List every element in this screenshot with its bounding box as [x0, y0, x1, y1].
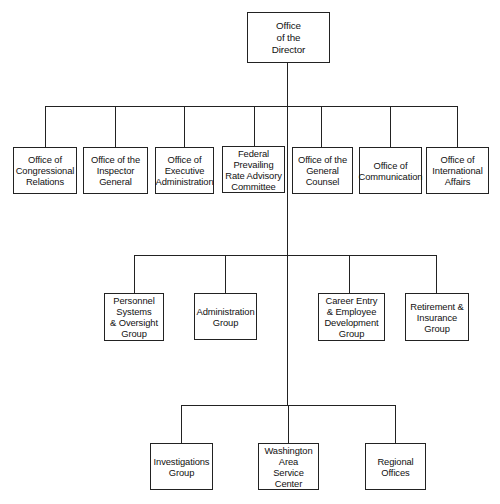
- node-regional-offices: Regional Offices: [365, 443, 426, 490]
- node-inspector-general: Office of the Inspector General: [83, 147, 148, 194]
- connector-counsel: [321, 106, 322, 147]
- node-general-counsel: Office of the General Counsel: [292, 147, 353, 194]
- node-retirement-insurance-group: Retirement & Insurance Group: [405, 293, 469, 341]
- node-washington-area-service-center: Washington Area Service Center: [258, 443, 319, 490]
- connector-inspector: [115, 106, 116, 147]
- node-administration-group: Administration Group: [194, 293, 257, 340]
- connector-international: [457, 106, 458, 147]
- connector-regional: [395, 405, 396, 443]
- trunk-line: [287, 62, 288, 405]
- connector-federal: [254, 106, 255, 147]
- connector-career: [349, 255, 350, 293]
- node-personnel-systems-oversight-group: Personnel Systems & Oversight Group: [104, 293, 164, 341]
- connector-investigations: [181, 405, 182, 443]
- level1-bus: [45, 106, 458, 107]
- connector-executive: [184, 106, 185, 147]
- level2-bus: [134, 255, 437, 256]
- node-office-of-the-director: Office of the Director: [247, 12, 330, 63]
- node-investigations-group: Investigations Group: [150, 443, 213, 490]
- connector-retirement: [436, 255, 437, 293]
- node-federal-prevailing-rate-advisory-committee: Federal Prevailing Rate Advisory Committ…: [222, 146, 285, 193]
- connector-washington: [288, 405, 289, 443]
- node-career-entry-employee-development-group: Career Entry & Employee Development Grou…: [318, 293, 385, 341]
- connector-communication: [390, 106, 391, 147]
- connector-personnel: [134, 255, 135, 293]
- connector-congressional: [45, 106, 46, 147]
- node-communication: Office of Communication: [359, 147, 422, 194]
- node-congressional-relations: Office of Congressional Relations: [13, 147, 77, 194]
- node-executive-administration: Office of Executive Administration: [155, 147, 214, 194]
- node-international-affairs: Office of International Affairs: [426, 147, 489, 194]
- connector-administration: [225, 255, 226, 293]
